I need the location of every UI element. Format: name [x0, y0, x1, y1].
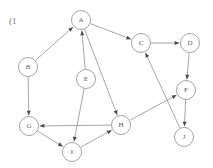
arrowhead-a-h-icon	[114, 110, 118, 115]
node-e-label: E	[84, 75, 88, 83]
arrowhead-b-g-icon	[27, 111, 31, 116]
node-c-label: C	[139, 39, 144, 47]
node-j[interactable]: J	[175, 128, 194, 147]
edge-h-f	[130, 95, 177, 120]
node-layer: ABCDEFGHIJ	[19, 11, 200, 162]
edge-b-a	[36, 27, 73, 60]
node-i[interactable]: I	[63, 143, 82, 162]
node-b-label: B	[26, 63, 31, 71]
edge-j-c	[145, 53, 179, 128]
node-f-label: F	[184, 86, 188, 94]
node-a-label: A	[78, 16, 83, 24]
arrowhead-e-i-icon	[73, 137, 77, 142]
edge-b-g	[28, 77, 29, 115]
arrowhead-f-j-icon	[183, 122, 187, 127]
node-h[interactable]: H	[112, 116, 131, 135]
edge-a-c	[90, 24, 131, 40]
node-j-label: J	[183, 133, 186, 141]
node-a[interactable]: A	[72, 11, 91, 30]
edge-layer	[27, 24, 190, 148]
arrowhead-h-g-icon	[40, 124, 45, 128]
node-f[interactable]: F	[177, 81, 196, 100]
arrowhead-g-i-icon	[58, 142, 63, 146]
node-b[interactable]: B	[19, 58, 38, 77]
node-d[interactable]: D	[181, 34, 200, 53]
node-g-label: G	[26, 122, 31, 130]
edge-i-h	[81, 130, 112, 147]
arrowhead-a-c-icon	[126, 36, 131, 40]
figure-canvas: (1 ABCDEFGHIJ	[0, 0, 213, 168]
node-g[interactable]: G	[20, 117, 39, 136]
edge-h-g	[40, 125, 111, 126]
arrowhead-c-d-icon	[175, 41, 180, 45]
node-e[interactable]: E	[77, 70, 96, 89]
directed-graph: ABCDEFGHIJ	[0, 0, 213, 168]
node-h-label: H	[118, 121, 123, 129]
node-c[interactable]: C	[132, 34, 151, 53]
edge-e-i	[74, 89, 84, 142]
node-d-label: D	[187, 39, 192, 47]
edge-e-a	[82, 31, 85, 69]
